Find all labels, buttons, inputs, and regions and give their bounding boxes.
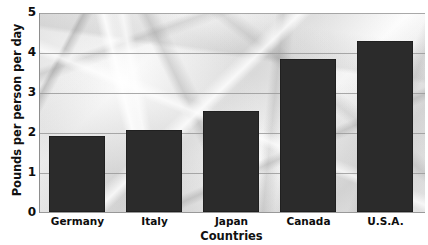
bar-canada [280,59,336,212]
x-axis-title: Countries [39,229,424,243]
y-tick-label-0: 0 [18,206,36,218]
y-tick-label-4: 4 [18,46,36,58]
gridline-5 [40,13,425,14]
bar-chart: Pounds per person per day 0 1 2 3 4 5 Ge… [0,0,428,245]
x-tick-label-canada: Canada [270,214,347,228]
bar-usa [357,41,413,212]
bar-japan [203,111,259,212]
y-tick-label-1: 1 [18,166,36,178]
y-tick-label-5: 5 [18,6,36,18]
gridline-0-baseline [40,212,425,213]
y-tick-label-3: 3 [18,86,36,98]
x-tick-label-italy: Italy [116,214,193,228]
bar-germany [49,136,105,212]
x-tick-label-germany: Germany [39,214,116,228]
x-tick-label-japan: Japan [193,214,270,228]
y-axis-tick-labels: 0 1 2 3 4 5 [18,0,36,245]
bar-italy [126,130,182,212]
x-tick-label-usa: U.S.A. [347,214,424,228]
plot-area [39,13,425,213]
y-tick-label-2: 2 [18,126,36,138]
x-axis-tick-labels: Germany Italy Japan Canada U.S.A. [39,214,424,230]
